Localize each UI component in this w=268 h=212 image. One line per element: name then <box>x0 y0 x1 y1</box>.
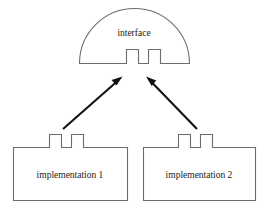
node-interface[interactable]: interface <box>80 9 190 64</box>
implementation-left-shape <box>14 135 128 201</box>
arrow-left-shaft <box>63 81 118 129</box>
implementation-right-shape <box>144 135 256 201</box>
implementation-right-label: implementation 2 <box>166 170 233 180</box>
arrow-left-implementation-to-interface <box>63 77 123 130</box>
arrow-right-implementation-to-interface <box>146 77 197 130</box>
node-implementation-right[interactable]: implementation 2 <box>144 135 256 201</box>
diagram-canvas: interface implementation 1 implementatio… <box>0 0 268 212</box>
diagram-svg: interface implementation 1 implementatio… <box>0 0 268 212</box>
arrow-right-shaft <box>151 81 198 129</box>
interface-label: interface <box>117 28 150 38</box>
implementation-left-label: implementation 1 <box>37 170 104 180</box>
node-implementation-left[interactable]: implementation 1 <box>14 135 128 201</box>
